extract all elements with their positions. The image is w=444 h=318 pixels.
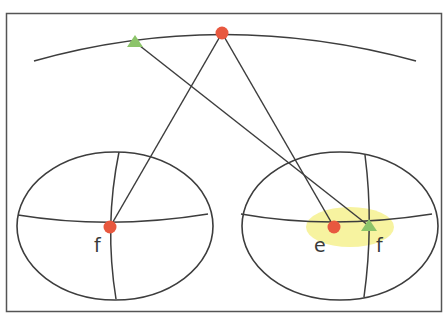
- diagram-canvas: [0, 0, 444, 318]
- label-right-f: f: [376, 236, 383, 255]
- right-red-point-icon: [328, 221, 341, 234]
- label-left-f: f: [94, 236, 101, 255]
- rays: [110, 33, 369, 227]
- label-right-e: e: [314, 236, 326, 255]
- frame-border: [7, 14, 442, 312]
- arc-red-point-icon: [216, 27, 229, 40]
- left-red-point-icon: [104, 221, 117, 234]
